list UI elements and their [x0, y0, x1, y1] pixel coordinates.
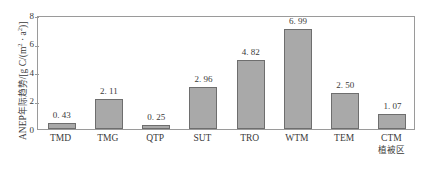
x-axis-category-code: TMD: [37, 133, 84, 144]
x-axis-category-code: SUT: [179, 133, 226, 144]
bar[interactable]: [331, 93, 359, 129]
bar-value-label: 1. 07: [383, 102, 401, 111]
bar-slot: 6. 99: [274, 17, 321, 129]
x-axis-category-tmg: TMG: [84, 133, 131, 144]
y-axis-tick-label: 2: [22, 97, 34, 106]
bar[interactable]: [237, 60, 265, 129]
x-axis-title: 植被区: [368, 145, 415, 156]
bar[interactable]: [284, 29, 312, 129]
x-axis-category-code: CTM: [368, 133, 415, 144]
bar[interactable]: [142, 125, 170, 129]
y-axis-tick-labels: 02468: [20, 0, 34, 170]
x-axis-category-tro: TRO: [226, 133, 273, 144]
bar-value-label: 0. 25: [147, 113, 165, 122]
x-axis-category-wtm: WTM: [273, 133, 320, 144]
bar-value-label: 2. 50: [336, 81, 354, 90]
bar-value-label: 4. 82: [242, 48, 260, 57]
bar-slot: 2. 96: [180, 17, 227, 129]
x-axis-category-ctm: CTM植被区: [368, 133, 415, 156]
bar-value-label: 6. 99: [289, 17, 307, 26]
y-axis-title-wrap: ANEP年际趋势/[g C/(m2 · a2)]: [0, 0, 22, 145]
plot-area: 0. 432. 110. 252. 964. 826. 992. 501. 07: [37, 16, 415, 130]
bar-slot: 2. 50: [322, 17, 369, 129]
bar-slot: 2. 11: [85, 17, 132, 129]
bar-value-label: 0. 43: [53, 111, 71, 120]
y-axis-tick-label: 0: [22, 126, 34, 135]
bar-series: 0. 432. 110. 252. 964. 826. 992. 501. 07: [38, 17, 414, 129]
bar-slot: 0. 43: [38, 17, 85, 129]
bar-slot: 4. 82: [227, 17, 274, 129]
x-axis-category-tem: TEM: [321, 133, 368, 144]
x-axis-category-code: TEM: [321, 133, 368, 144]
bar-slot: 1. 07: [369, 17, 416, 129]
y-axis-tick-label: 4: [22, 69, 34, 78]
y-axis-tick-label: 8: [22, 12, 34, 21]
bar[interactable]: [48, 123, 76, 129]
bar[interactable]: [95, 99, 123, 129]
x-axis-category-code: TMG: [84, 133, 131, 144]
x-axis-category-sut: SUT: [179, 133, 226, 144]
chart-figure: ANEP年际趋势/[g C/(m2 · a2)] 02468 0. 432. 1…: [0, 0, 425, 170]
bar-slot: 0. 25: [133, 17, 180, 129]
x-axis-category-qtp: QTP: [132, 133, 179, 144]
x-axis-category-code: QTP: [132, 133, 179, 144]
bar[interactable]: [189, 87, 217, 129]
x-axis-category-code: WTM: [273, 133, 320, 144]
bar-value-label: 2. 96: [194, 75, 212, 84]
x-axis-category-tmd: TMD: [37, 133, 84, 144]
x-axis-category-labels: TMDTMGQTPSUTTROWTMTEMCTM植被区: [37, 133, 415, 170]
x-axis-category-code: TRO: [226, 133, 273, 144]
bar[interactable]: [378, 114, 406, 129]
bar-value-label: 2. 11: [100, 87, 118, 96]
y-axis-tick-label: 6: [22, 40, 34, 49]
